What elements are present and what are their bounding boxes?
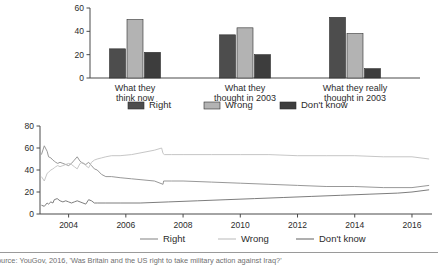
bar-rect <box>365 69 381 78</box>
line-y-tick-label: 20 <box>25 187 35 197</box>
bar-legend-swatch <box>128 102 144 109</box>
bar-category-label: What they really <box>323 83 388 93</box>
line-legend-label: Wrong <box>241 233 269 244</box>
line-y-tick-label: 60 <box>25 143 35 153</box>
bar-category-label: What they <box>115 83 156 93</box>
line-series-path <box>41 190 429 207</box>
line-legend-label: Right <box>163 233 186 244</box>
bar-legend-swatch <box>204 102 220 109</box>
bar-y-tick-label: 0 <box>79 73 84 83</box>
line-series-path <box>41 146 429 188</box>
bar-rect <box>220 35 236 78</box>
bar-y-tick-label: 60 <box>75 3 85 13</box>
line-y-tick-label: 0 <box>29 209 34 219</box>
line-x-tick-label: 2010 <box>231 220 250 230</box>
line-x-tick-label: 2006 <box>116 220 135 230</box>
line-x-tick-label: 2012 <box>288 220 307 230</box>
bar-rect <box>145 52 161 78</box>
bar-legend-label: Wrong <box>225 99 253 110</box>
line-chart: 0204060802004200620082010201220142016Rig… <box>0 118 438 256</box>
line-x-tick-label: 2016 <box>403 220 422 230</box>
bar-rect <box>127 20 143 78</box>
figure-container: 0204060What theythink nowWhat theythough… <box>0 0 438 266</box>
line-x-tick-label: 2014 <box>345 220 364 230</box>
source-caption: Source: YouGov, 2016, 'Was Britain and t… <box>0 256 438 265</box>
bar-chart: 0204060What theythink nowWhat theythough… <box>0 0 438 118</box>
bar-rect <box>330 17 346 78</box>
line-y-tick-label: 40 <box>25 165 35 175</box>
bar-y-tick-label: 20 <box>75 50 85 60</box>
bar-legend-swatch <box>280 102 296 109</box>
bar-y-tick-label: 40 <box>75 26 85 36</box>
line-x-tick-label: 2008 <box>174 220 193 230</box>
line-legend-label: Don't know <box>319 233 366 244</box>
bar-rect <box>237 28 253 78</box>
line-x-tick-label: 2004 <box>59 220 78 230</box>
bar-rect <box>110 49 126 78</box>
line-y-tick-label: 80 <box>25 121 35 131</box>
line-series-path <box>41 148 429 181</box>
bar-category-label: What they <box>225 83 266 93</box>
bar-rect <box>255 55 271 78</box>
bar-rect <box>347 34 363 78</box>
bar-legend-label: Right <box>149 99 172 110</box>
caption-divider <box>0 252 438 253</box>
bar-legend-label: Don't know <box>301 99 348 110</box>
